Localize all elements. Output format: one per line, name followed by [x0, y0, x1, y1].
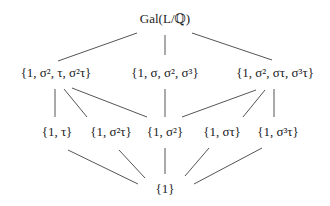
edge-g-v2 [192, 33, 272, 60]
subgroup-node-t3: {1, στ} [203, 125, 241, 138]
subgroup-node-v2: {1, σ², στ, σ³τ} [236, 66, 314, 79]
subgroup-node-c4: {1, σ, σ², σ³} [131, 66, 198, 79]
subgroup-node-v1: {1, σ², τ, σ²τ} [21, 66, 92, 79]
edge-t1-e [68, 150, 138, 184]
subgroup-node-t2: {1, σ²τ} [90, 125, 132, 138]
subgroup-node-t1: {1, τ} [42, 125, 73, 138]
edge-v2-s2 [182, 90, 256, 117]
subgroup-node-e: {1} [156, 182, 175, 195]
lattice-edges [0, 0, 330, 206]
subgroup-node-g: Gal(L/ℚ) [140, 12, 190, 25]
subgroup-node-t4: {1, σ³τ} [257, 125, 299, 138]
edge-g-v1 [58, 33, 137, 61]
edge-t3-e [185, 148, 209, 176]
edge-v1-t2 [64, 89, 87, 117]
subgroup-node-s2: {1, σ²} [147, 125, 183, 138]
edge-t2-e [119, 150, 145, 178]
